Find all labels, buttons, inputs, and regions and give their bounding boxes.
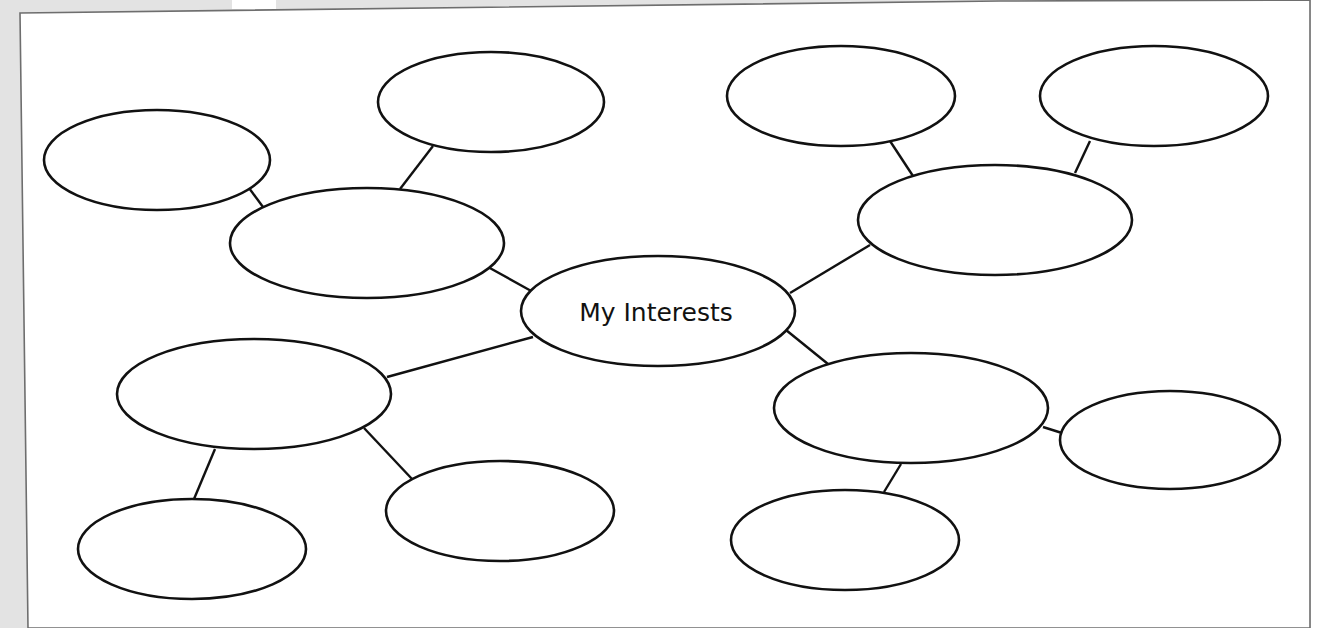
page-margin-right (1311, 0, 1322, 628)
bubble-top-left[interactable] (44, 110, 270, 210)
bubble-far-right[interactable] (1060, 391, 1280, 489)
bubble-bottom-center-left[interactable] (386, 461, 614, 561)
bubble-bottom-right[interactable] (731, 490, 959, 590)
center-node[interactable]: My Interests (521, 256, 795, 366)
bubble-bottom-left[interactable] (78, 499, 306, 599)
bubble-upper-left-branch[interactable] (230, 188, 504, 298)
bubble-lower-right-branch[interactable] (774, 353, 1048, 463)
bubble-top-right-a[interactable] (727, 46, 955, 146)
center-label: My Interests (579, 298, 733, 327)
bubble-top-right-b[interactable] (1040, 46, 1268, 146)
worksheet-page: My Interests (0, 0, 1322, 628)
scan-gap (232, 0, 276, 9)
mind-map-diagram: My Interests (0, 0, 1322, 628)
bubble-upper-right-branch[interactable] (858, 165, 1132, 275)
bubble-top-middle[interactable] (378, 52, 604, 152)
bubble-lower-left-branch[interactable] (117, 339, 391, 449)
